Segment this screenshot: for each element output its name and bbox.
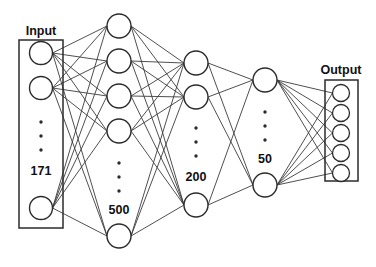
neuron-hidden1-1 <box>107 14 131 38</box>
layer-size-label-hidden2: 200 <box>186 170 207 184</box>
ellipsis-dot-hidden3-2 <box>263 124 266 127</box>
layer-size-label-input: 171 <box>31 164 52 178</box>
neuron-output-4 <box>333 145 350 162</box>
neuron-input-2 <box>30 77 53 100</box>
connection-line <box>208 63 253 185</box>
neuron-hidden1-5 <box>107 224 131 248</box>
neural-network-diagram: 171Input50020050Output <box>0 0 376 267</box>
neuron-hidden1-3 <box>107 84 131 108</box>
connection-line <box>53 26 108 208</box>
ellipsis-dot-hidden2-3 <box>194 154 197 157</box>
neuron-hidden1-4 <box>107 119 131 143</box>
connection-line <box>53 96 108 208</box>
connection-line <box>277 80 333 113</box>
neuron-hidden1-2 <box>107 49 131 73</box>
connection-line <box>131 26 184 63</box>
layer-group-label-input: Input <box>26 24 57 38</box>
neuron-input-3 <box>30 197 53 220</box>
ellipsis-dot-input-2 <box>39 134 42 137</box>
neuron-output-5 <box>333 165 350 182</box>
layer-nodes <box>30 14 350 248</box>
ellipsis-dot-input-1 <box>39 120 42 123</box>
ellipsis-dot-hidden2-2 <box>194 140 197 143</box>
connection-line <box>131 26 184 205</box>
connection-line <box>208 63 253 80</box>
connection-line <box>53 53 108 236</box>
neuron-output-1 <box>333 85 350 102</box>
network-canvas: 171Input50020050Output <box>0 0 376 267</box>
neuron-hidden3-1 <box>253 68 277 92</box>
connection-line <box>131 97 184 236</box>
connection-line <box>53 208 108 236</box>
ellipsis-dot-hidden1-3 <box>117 189 120 192</box>
connection-line <box>277 113 333 185</box>
connection-line <box>131 61 184 205</box>
neuron-hidden2-1 <box>184 51 208 75</box>
ellipsis-dot-input-3 <box>39 148 42 151</box>
layer-size-label-hidden1: 500 <box>109 203 130 217</box>
connection-line <box>53 61 108 208</box>
ellipsis-dot-hidden1-1 <box>117 161 120 164</box>
ellipsis-dot-hidden3-1 <box>263 110 266 113</box>
connection-line <box>131 63 184 96</box>
ellipsis-dot-hidden3-3 <box>263 138 266 141</box>
connection-line <box>53 131 108 208</box>
neuron-hidden2-3 <box>184 193 208 217</box>
neuron-input-1 <box>30 42 53 65</box>
neuron-hidden3-2 <box>253 173 277 197</box>
connection-line <box>53 88 108 236</box>
neuron-output-2 <box>333 105 350 122</box>
connection-line <box>208 97 253 185</box>
connection-line <box>131 97 184 131</box>
connection-line <box>208 185 253 205</box>
connection-line <box>53 26 108 88</box>
ellipsis-dot-hidden2-1 <box>194 126 197 129</box>
neuron-hidden2-2 <box>184 85 208 109</box>
layer-group-label-output: Output <box>321 63 363 77</box>
layer-size-label-hidden3: 50 <box>258 152 272 166</box>
connection-line <box>131 131 184 205</box>
neuron-output-3 <box>333 125 350 142</box>
ellipsis-dot-hidden1-2 <box>117 175 120 178</box>
connection-line <box>277 153 333 185</box>
connection-line <box>208 80 253 205</box>
